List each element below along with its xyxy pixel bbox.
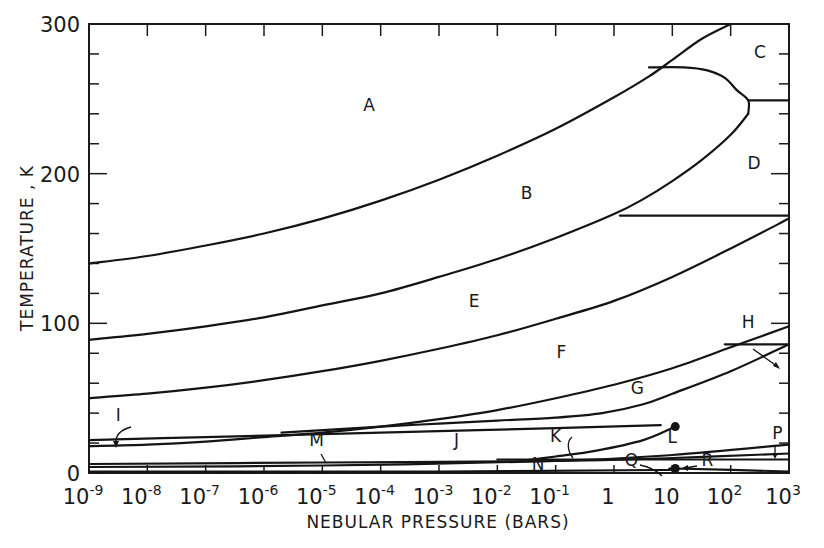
arrow-r-head xyxy=(682,465,688,471)
curve-g-lower-boundary xyxy=(282,344,790,432)
region-label-i: I xyxy=(116,405,121,425)
x-tick-label: 10-3 xyxy=(413,482,454,509)
arrow-h-head xyxy=(773,362,780,369)
region-label-n: N xyxy=(532,454,545,474)
y-tick-label: 100 xyxy=(40,312,80,336)
x-tick-label: 10-2 xyxy=(471,482,512,509)
x-tick-label: 10-5 xyxy=(296,482,337,509)
region-label-r: R xyxy=(701,450,713,470)
x-axis-title: NEBULAR PRESSURE (BARS) xyxy=(306,512,569,532)
region-label-d: D xyxy=(747,153,760,173)
region-label-g: G xyxy=(631,378,644,398)
y-axis-title: TEMPERATURE , K xyxy=(17,165,37,332)
x-axis-tick-labels: 10-910-810-710-610-510-410-310-210-11101… xyxy=(63,482,801,509)
region-label-m: M xyxy=(309,430,324,450)
arrow-p-head xyxy=(772,453,778,459)
x-tick-label: 10-6 xyxy=(238,482,279,509)
region-label-f: F xyxy=(557,342,567,362)
x-tick-label: 103 xyxy=(765,482,801,509)
curve-a-b-boundary xyxy=(89,24,731,264)
x-tick-label: 10-4 xyxy=(354,482,395,509)
region-label-p: P xyxy=(772,423,782,443)
curve-b-e-boundary xyxy=(89,114,748,340)
y-axis-tick-labels: 0100200300 xyxy=(40,13,80,486)
x-tick-label: 10-8 xyxy=(121,482,162,509)
region-labels: ABCDEFGHIJKLMNPQR xyxy=(116,42,783,474)
region-label-j: J xyxy=(453,430,459,450)
region-label-l: L xyxy=(668,427,678,447)
phase-diagram-chart: 10-910-810-710-610-510-410-310-210-11101… xyxy=(0,0,824,548)
x-tick-label: 10 xyxy=(653,485,680,509)
x-tick-label: 102 xyxy=(707,482,743,509)
region-label-q: Q xyxy=(625,450,638,470)
y-tick-label: 0 xyxy=(67,462,80,486)
y-tick-label: 200 xyxy=(40,163,80,187)
region-label-b: B xyxy=(521,183,533,203)
region-label-k: K xyxy=(550,426,562,446)
region-label-a: A xyxy=(363,95,375,115)
endpoint-dot xyxy=(671,464,680,473)
curve-c-d-upper-loop xyxy=(649,67,749,114)
region-label-h: H xyxy=(742,312,755,332)
x-tick-label: 10-7 xyxy=(179,482,220,509)
x-tick-label: 10-1 xyxy=(529,482,570,509)
x-tick-label: 1 xyxy=(601,485,614,509)
region-label-c: C xyxy=(754,42,766,62)
curve-f-g-boundary xyxy=(89,326,789,446)
region-label-e: E xyxy=(469,291,480,311)
x-tick-label: 10-9 xyxy=(63,482,104,509)
y-tick-label: 300 xyxy=(40,13,80,37)
phase-boundary-curves xyxy=(89,24,789,472)
curve-e-f-boundary xyxy=(89,219,789,399)
